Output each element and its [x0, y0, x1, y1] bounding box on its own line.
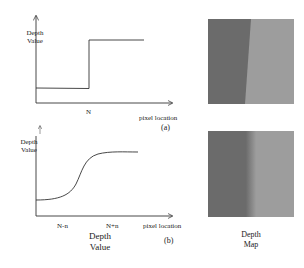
caption-line2: Map: [236, 240, 266, 250]
panel-a-ylabel: Depth Value: [20, 29, 50, 45]
caption-line2: Value: [80, 242, 120, 253]
depth-map-sharp: [208, 19, 294, 104]
panel-a-label: (a): [161, 123, 170, 132]
tick-n-minus: N-n: [57, 222, 68, 230]
caption-depth-map: Depth Map: [236, 230, 266, 250]
panel-a-xlabel: pixel location: [139, 114, 177, 122]
caption-depth-value: Depth Value: [80, 231, 120, 253]
ylabel-line2: Value: [20, 37, 50, 45]
sigmoid-curve: [36, 152, 138, 200]
ylabel-line1: Depth: [14, 138, 44, 146]
step-curve: [36, 40, 144, 89]
panel-b-xlabel: pixel location: [143, 222, 181, 230]
panel-b-axes: [36, 136, 172, 216]
panel-b-label: (b): [164, 236, 173, 245]
panel-a-axes: [36, 16, 172, 103]
tick-n: N: [86, 108, 91, 116]
panel-b-ylabel: Depth Value: [14, 138, 44, 154]
ylabel-line1: Depth: [20, 29, 50, 37]
ylabel-line2: Value: [14, 146, 44, 154]
caption-line1: Depth: [80, 231, 120, 242]
depth-map-smooth: [208, 131, 294, 217]
tick-n-plus: N+n: [106, 222, 119, 230]
caption-line1: Depth: [236, 230, 266, 240]
